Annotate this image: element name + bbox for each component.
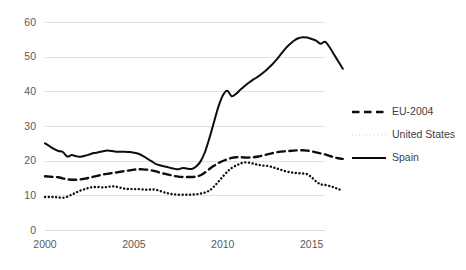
x-axis-tick-label: 2005 — [122, 238, 146, 250]
x-axis-tick-label: 2010 — [211, 238, 235, 250]
y-axis-tick-label: 0 — [30, 224, 36, 236]
chart-canvas: 0102030405060 2000200520102015 EU-2004Un… — [0, 0, 466, 270]
x-axis-tick-label: 2000 — [33, 238, 57, 250]
y-axis-tick-label: 20 — [24, 154, 36, 166]
y-axis-tick-label: 30 — [24, 120, 36, 132]
x-axis-tick-label: 2015 — [300, 238, 324, 250]
y-axis-tick-label: 40 — [24, 85, 36, 97]
legend-label-spain: Spain — [392, 151, 419, 163]
legend-label-united-states: United States — [392, 128, 455, 140]
y-axis-tick-label: 50 — [24, 50, 36, 62]
line-chart-figure: 0102030405060 2000200520102015 EU-2004Un… — [0, 0, 466, 270]
y-axis-tick-label: 60 — [24, 16, 36, 28]
legend-label-eu-2004: EU-2004 — [392, 105, 434, 117]
y-axis-tick-label: 10 — [24, 189, 36, 201]
